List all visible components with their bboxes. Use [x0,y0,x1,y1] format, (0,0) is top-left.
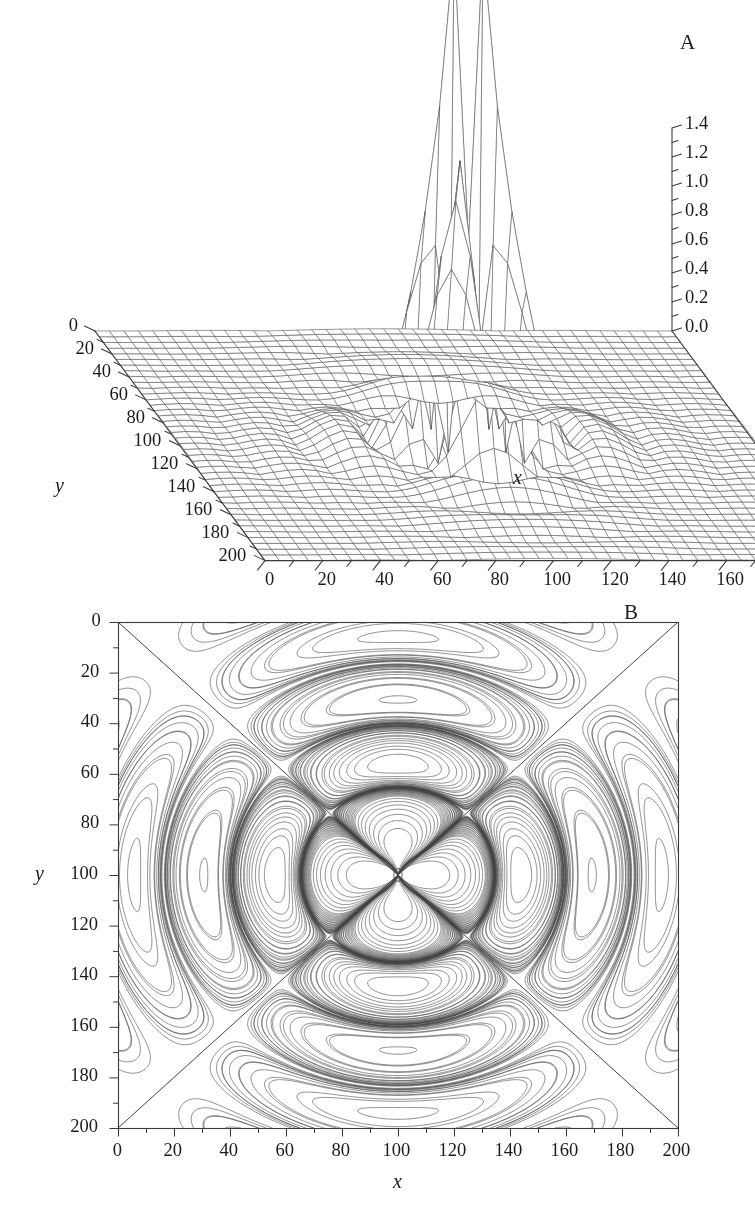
panel-a-y-tick-160: 160 [184,499,212,520]
panel-a-y-tick-180: 180 [201,522,229,543]
panel-a-z-tick-1p4: 1.4 [685,113,708,134]
panel-b-y-tick-140: 140 [70,964,98,985]
surface-mesh-canvas [0,0,755,600]
panel-b-y-tick-80: 80 [81,812,100,833]
scientific-figure: A 020406080100120140160180200y0204060801… [0,0,755,1212]
panel-b-x-tick-40: 40 [220,1140,239,1161]
panel-a-surface-plot: A 020406080100120140160180200y0204060801… [0,0,755,600]
panel-b-x-tick-120: 120 [438,1140,466,1161]
panel-a-x-tick-0: 0 [265,569,274,590]
panel-b-y-tick-0: 0 [91,610,100,631]
panel-a-y-tick-100: 100 [133,430,161,451]
panel-b-contour-plot: 020406080100120140160180200x020406080100… [0,595,755,1212]
panel-b-x-tick-100: 100 [382,1140,410,1161]
panel-a-y-tick-80: 80 [127,407,146,428]
panel-b-y-axis-title: y [35,862,44,885]
panel-b-y-tick-180: 180 [70,1065,98,1086]
panel-a-x-tick-80: 80 [491,569,510,590]
panel-b-x-tick-200: 200 [662,1140,690,1161]
contour-canvas [0,595,755,1212]
panel-a-z-tick-0p2: 0.2 [685,287,708,308]
panel-label-a: A [680,30,695,55]
panel-b-x-tick-160: 160 [550,1140,578,1161]
panel-b-x-tick-60: 60 [276,1140,295,1161]
panel-b-y-tick-40: 40 [81,711,100,732]
panel-a-x-tick-120: 120 [601,569,629,590]
panel-a-x-tick-140: 140 [659,569,687,590]
panel-b-x-tick-20: 20 [164,1140,183,1161]
panel-b-y-tick-120: 120 [70,914,98,935]
panel-a-y-tick-60: 60 [110,384,129,405]
panel-b-y-tick-200: 200 [70,1116,98,1137]
panel-a-z-tick-0p8: 0.8 [685,200,708,221]
panel-b-x-tick-140: 140 [494,1140,522,1161]
panel-b-x-tick-80: 80 [332,1140,351,1161]
panel-b-x-tick-180: 180 [606,1140,634,1161]
panel-a-y-axis-title: y [55,474,64,497]
panel-a-x-axis-title: x [513,466,522,489]
panel-b-y-tick-160: 160 [70,1015,98,1036]
panel-b-y-tick-100: 100 [70,863,98,884]
panel-a-x-tick-40: 40 [375,569,394,590]
panel-b-x-axis-title: x [393,1170,402,1193]
panel-a-x-tick-20: 20 [318,569,337,590]
panel-a-z-tick-0p6: 0.6 [685,229,708,250]
panel-a-y-tick-140: 140 [167,476,195,497]
panel-a-y-tick-40: 40 [93,361,112,382]
panel-a-z-tick-1p2: 1.2 [685,142,708,163]
panel-b-y-tick-20: 20 [81,661,100,682]
panel-a-z-tick-0: 0.0 [685,316,708,337]
panel-a-y-tick-20: 20 [76,338,95,359]
panel-a-y-tick-0: 0 [69,315,78,336]
panel-label-b: B [624,600,638,625]
panel-b-x-tick-0: 0 [113,1140,122,1161]
panel-a-y-tick-120: 120 [150,453,178,474]
panel-a-z-tick-0p4: 0.4 [685,258,708,279]
panel-a-x-tick-100: 100 [543,569,571,590]
panel-a-y-tick-200: 200 [218,545,246,566]
panel-a-x-tick-60: 60 [433,569,452,590]
panel-a-z-tick-1: 1.0 [685,171,708,192]
panel-b-y-tick-60: 60 [81,762,100,783]
panel-a-x-tick-160: 160 [716,569,744,590]
